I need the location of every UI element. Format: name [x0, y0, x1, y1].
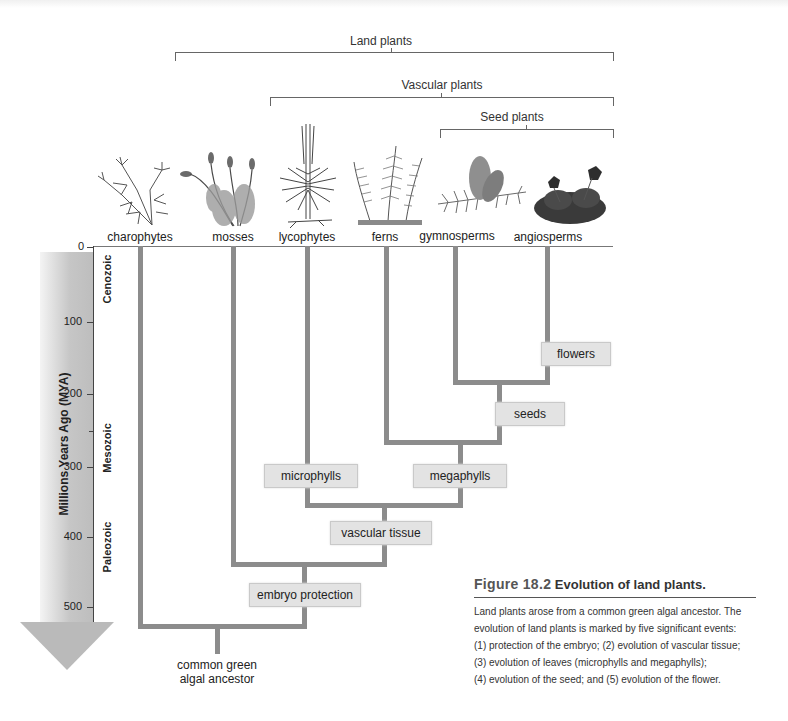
seed-plants-bracket [440, 129, 614, 138]
branch-gymnosperms [453, 246, 458, 384]
figure-title-text: Evolution of land plants. [555, 577, 706, 592]
figure-title: Figure 18.2 Evolution of land plants. [474, 576, 706, 592]
angiosperm-flower-illustration [528, 160, 612, 228]
tick-0 [87, 247, 93, 248]
era-cenozoic: Cenozoic [101, 244, 115, 314]
event-vascular-tissue: vascular tissue [330, 521, 432, 545]
land-plants-bracket [175, 52, 614, 61]
taxon-label-charophytes: charophytes [100, 230, 180, 244]
figure-caption: Land plants arose from a common green al… [474, 603, 774, 688]
branch-mosses [231, 246, 236, 566]
tick-200 [87, 394, 93, 395]
taxon-label-gymnosperms: gymnosperms [419, 229, 495, 243]
event-microphylls: microphylls [264, 464, 358, 488]
taxon-label-lycophytes: lycophytes [272, 230, 342, 244]
fern-illustration [350, 136, 430, 228]
branch-charophytes [138, 246, 143, 628]
era-paleozoic: Paleozoic [101, 512, 115, 582]
event-seeds: seeds [495, 402, 565, 426]
caption-line-5: (4) evolution of the seed; and (5) evolu… [474, 671, 774, 688]
branch-embryophytes-join [231, 562, 387, 567]
branch-euphyllophytes-join [384, 440, 502, 445]
ancestor-label: common green algal ancestor [162, 658, 272, 686]
taxon-label-mosses: mosses [203, 230, 263, 244]
tick-label-0: 0 [54, 240, 84, 252]
present-day-line [93, 246, 613, 247]
era-mesozoic: Mesozoic [101, 413, 115, 483]
seed-plants-label: Seed plants [457, 110, 567, 124]
time-axis-arrow-head [20, 622, 114, 670]
charophyte-illustration [92, 140, 176, 228]
tick-label-100: 100 [54, 315, 82, 327]
branch-root-join [138, 624, 307, 629]
event-megaphylls: megaphylls [413, 464, 507, 488]
tick-label-400: 400 [54, 530, 82, 542]
event-flowers: flowers [541, 342, 611, 366]
ancestor-label-line1: common green [162, 658, 272, 672]
land-plants-label: Land plants [311, 34, 451, 48]
taxon-label-ferns: ferns [363, 230, 407, 244]
caption-line-1: Land plants arose from a common green al… [474, 603, 774, 620]
caption-line-4: (3) evolution of leaves (microphylls and… [474, 654, 774, 671]
figure-number: Figure 18.2 [474, 576, 551, 592]
axis-title: Millions Years Ago (MYA) [57, 359, 73, 529]
lycophyte-illustration [278, 124, 342, 228]
caption-line-3: (1) protection of the embryo; (2) evolut… [474, 637, 774, 654]
tick-250 [89, 431, 93, 432]
vascular-plants-bracket-tick [441, 93, 442, 98]
land-plants-bracket-tick [391, 48, 392, 53]
top-fade [0, 0, 788, 8]
ancestor-label-line2: algal ancestor [162, 672, 272, 686]
seed-plants-bracket-tick [526, 125, 527, 130]
caption-line-2: evolution of land plants is marked by fi… [474, 620, 774, 637]
tick-500 [87, 607, 93, 608]
moss-illustration [178, 140, 268, 228]
taxon-label-angiosperms: angiosperms [508, 230, 588, 244]
tick-300 [87, 467, 93, 468]
gymnosperm-cone-illustration [438, 152, 528, 224]
tick-100 [87, 322, 93, 323]
vascular-plants-bracket [270, 97, 614, 106]
branch-root [215, 624, 220, 654]
branch-ferns [384, 246, 389, 444]
figure-title-rule [474, 597, 756, 598]
event-embryo-protection: embryo protection [249, 583, 361, 607]
tick-400 [87, 537, 93, 538]
tick-label-500: 500 [54, 600, 82, 612]
vascular-plants-label: Vascular plants [372, 78, 512, 92]
time-axis-line [93, 246, 94, 622]
